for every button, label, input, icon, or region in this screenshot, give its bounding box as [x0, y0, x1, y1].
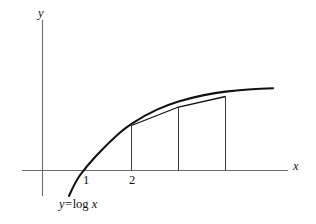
- curve-equation-caption: y=log x: [59, 198, 97, 211]
- caption-variable-y: y: [59, 197, 65, 211]
- figure-canvas: [0, 0, 316, 224]
- caption-argument-x: x: [92, 197, 98, 211]
- x-tick-label-1: 1: [83, 174, 89, 187]
- x-tick-label-2: 2: [129, 174, 135, 187]
- caption-function-log: log: [73, 197, 89, 211]
- caption-equals-sign: =: [65, 197, 73, 211]
- log-curve-path: [69, 88, 273, 196]
- log-curve-figure: y x 1 2 y=log x: [0, 0, 316, 224]
- y-axis-label: y: [38, 7, 44, 20]
- x-axis-label: x: [293, 160, 299, 173]
